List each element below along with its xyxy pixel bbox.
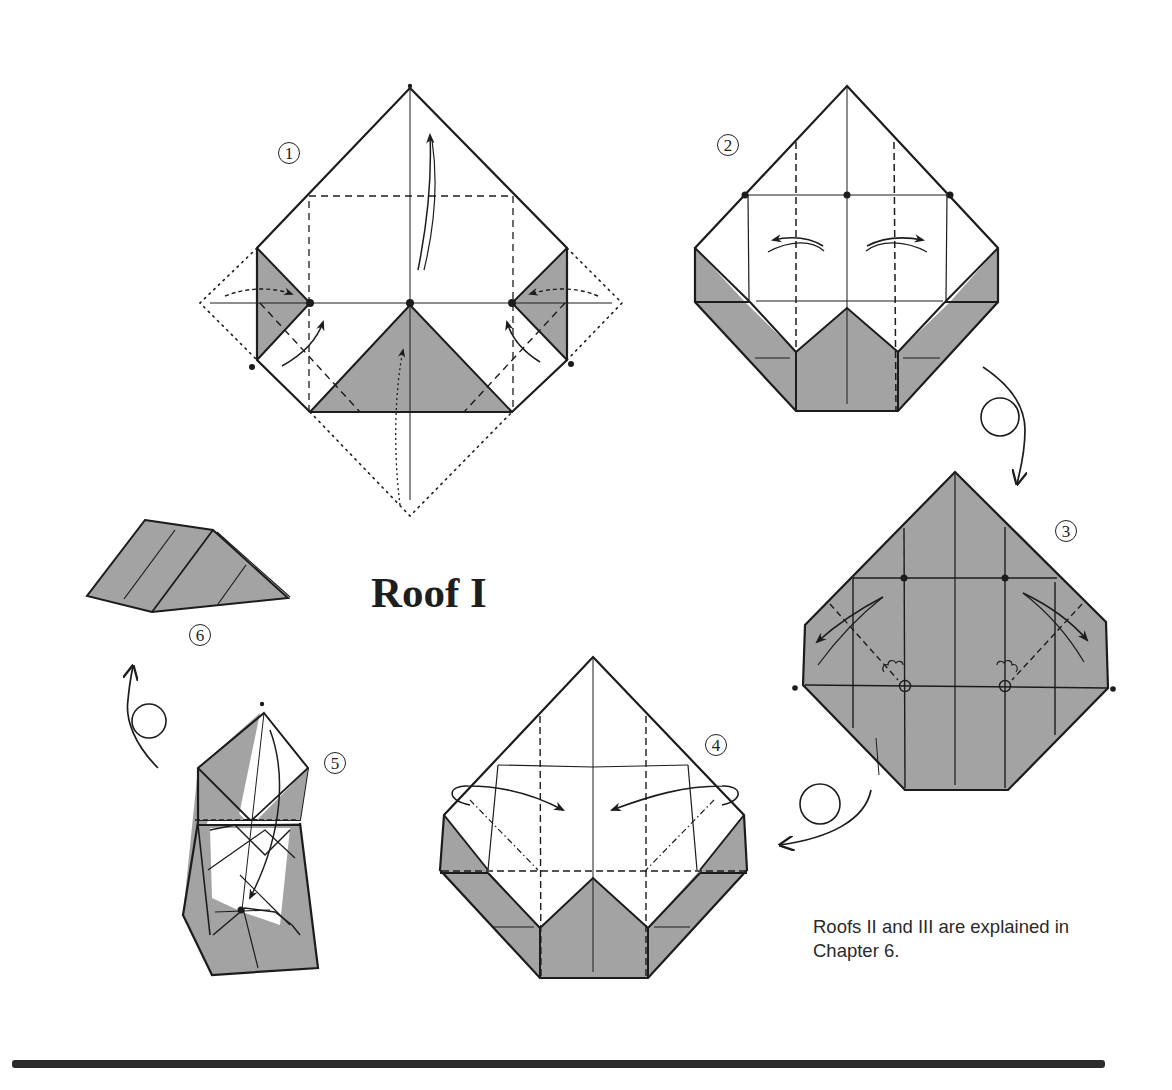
step-number-2: 2 (717, 134, 739, 156)
chapter-note: Roofs II and III are explained in Chapte… (813, 915, 1073, 963)
step-5-diagram (183, 702, 318, 975)
step-number-3: 3 (1055, 520, 1077, 542)
step-number-5: 5 (324, 752, 346, 774)
step-1-diagram (200, 84, 622, 516)
step-4-diagram (440, 657, 747, 978)
step-number-1: 1 (278, 142, 300, 164)
step-6-diagram (87, 520, 290, 612)
step-2-diagram (695, 86, 998, 411)
turn-over-icon (780, 784, 871, 845)
turn-over-icon (127, 666, 166, 768)
page-title: Roof I (371, 568, 487, 617)
turn-over-icon (981, 367, 1025, 484)
step-number-4: 4 (705, 734, 727, 756)
step-number-6: 6 (189, 624, 211, 646)
bottom-rule-divider (12, 1060, 1105, 1068)
